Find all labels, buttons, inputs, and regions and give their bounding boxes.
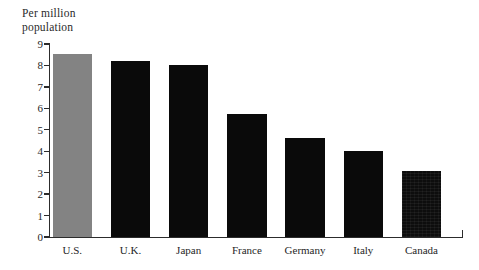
y-axis-label-2: 2 <box>38 188 44 200</box>
category-label-japan: Japan <box>176 244 201 256</box>
y-axis-label-8: 8 <box>38 59 44 71</box>
y-tick-5 <box>44 129 50 130</box>
y-tick-6 <box>44 108 50 109</box>
y-axis-label-5: 5 <box>38 124 44 136</box>
bar-germany <box>285 138 325 237</box>
bar-france <box>227 114 267 236</box>
y-axis-label-3: 3 <box>38 167 44 179</box>
y-axis-label-1: 1 <box>38 210 44 222</box>
category-label-italy: Italy <box>353 244 373 256</box>
category-label-canada: Canada <box>405 244 438 256</box>
bar-u-s <box>53 54 93 236</box>
y-axis-label-7: 7 <box>38 81 44 93</box>
x-axis-line <box>49 237 463 238</box>
category-label-u-s: U.S. <box>62 244 82 256</box>
bar-japan <box>169 65 209 237</box>
y-axis-label-4: 4 <box>38 145 44 157</box>
y-tick-2 <box>44 193 50 194</box>
y-axis-label-0: 0 <box>38 231 44 243</box>
y-tick-7 <box>44 86 50 87</box>
y-tick-8 <box>44 65 50 66</box>
y-tick-3 <box>44 172 50 173</box>
category-label-france: France <box>232 244 262 256</box>
y-axis-label-6: 6 <box>38 102 44 114</box>
y-tick-9 <box>44 43 50 44</box>
bar-italy <box>344 151 384 237</box>
plot-area: 0123456789 U.S.U.K.JapanFranceGermanyIta… <box>49 44 463 238</box>
bar-canada <box>402 171 442 236</box>
y-tick-4 <box>44 151 50 152</box>
y-tick-0 <box>44 236 50 237</box>
y-axis-label-9: 9 <box>38 38 44 50</box>
y-tick-1 <box>44 215 50 216</box>
category-label-germany: Germany <box>285 244 326 256</box>
bar-u-k <box>111 61 151 237</box>
chart-title: Per million population <box>22 6 76 34</box>
x-axis-end-tick <box>462 230 463 238</box>
category-label-u-k: U.K. <box>120 244 141 256</box>
y-axis-line <box>49 44 50 238</box>
bar-chart: Per million population 0123456789 U.S.U.… <box>0 0 479 270</box>
